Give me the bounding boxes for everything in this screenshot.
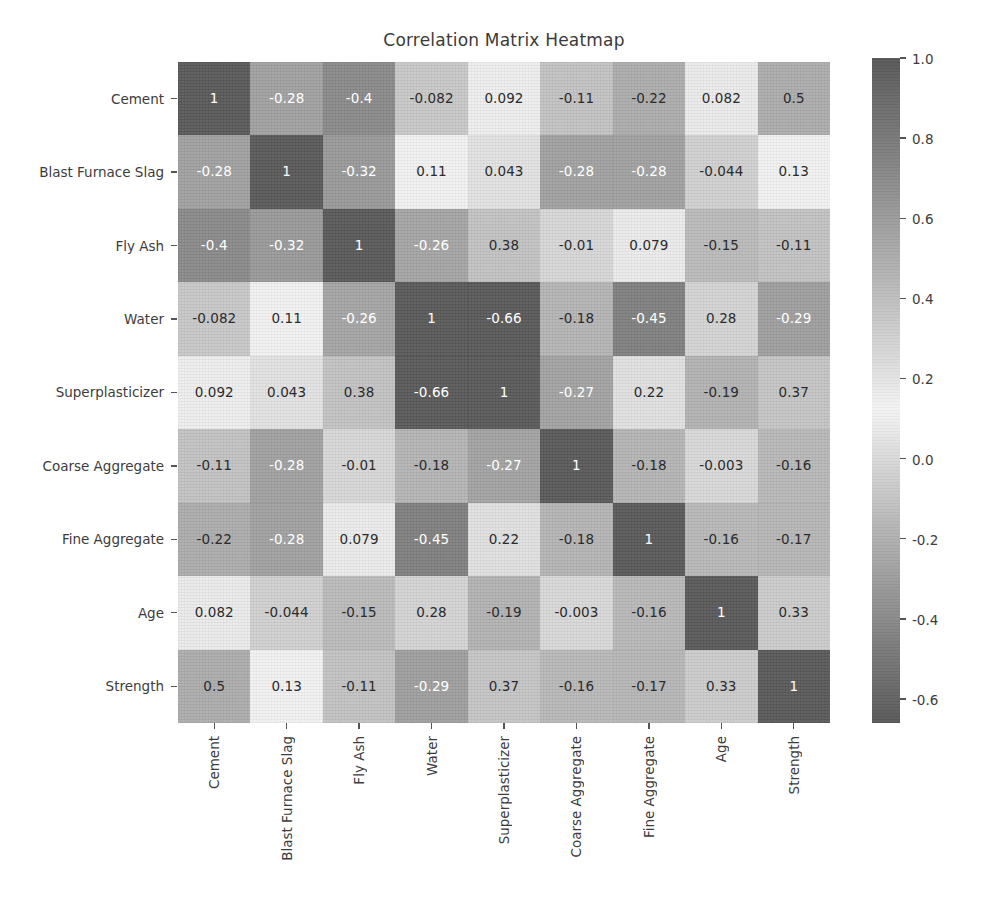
- x-axis-tick-label: Cement: [206, 736, 222, 789]
- heatmap-cell: -0.45: [613, 282, 685, 355]
- heatmap-cell: -0.11: [540, 62, 612, 135]
- colorbar-tickmark: [900, 378, 906, 379]
- x-axis-tick: Age: [685, 723, 757, 908]
- y-axis-tick: Fine Aggregate: [0, 503, 178, 576]
- colorbar-tickmark: [900, 298, 906, 299]
- heatmap-cell-value: -0.17: [631, 680, 666, 694]
- heatmap-cell-value: -0.28: [269, 459, 304, 473]
- heatmap-cell: -0.044: [250, 576, 322, 649]
- heatmap-cell-value: 0.22: [489, 533, 519, 547]
- heatmap-cell-value: 0.37: [779, 386, 809, 400]
- heatmap-cell: -0.22: [178, 503, 250, 576]
- heatmap-cell: 1: [395, 282, 467, 355]
- heatmap-cell: 1: [613, 503, 685, 576]
- x-axis-tick: Water: [395, 723, 467, 908]
- heatmap-cell: 0.5: [758, 62, 830, 135]
- heatmap-cell-value: 0.37: [489, 680, 519, 694]
- heatmap-cell: -0.16: [685, 503, 757, 576]
- colorbar-tick-label: -0.2: [912, 531, 938, 547]
- colorbar-tickmark: [900, 57, 906, 58]
- heatmap-cell-value: -0.082: [192, 312, 236, 326]
- heatmap-cell-value: -0.16: [776, 459, 811, 473]
- colorbar-tick-label: 0.4: [912, 291, 933, 307]
- heatmap-cell-value: -0.32: [341, 165, 376, 179]
- heatmap-cell: -0.003: [685, 429, 757, 502]
- y-axis-tick-label: Fly Ash: [115, 238, 171, 254]
- heatmap-cell: -0.01: [540, 209, 612, 282]
- x-axis-tick-label: Fine Aggregate: [641, 736, 657, 838]
- heatmap-cell: -0.17: [758, 503, 830, 576]
- heatmap-cell-value: 0.13: [779, 165, 809, 179]
- x-axis-tick: Blast Furnace Slag: [250, 723, 322, 908]
- heatmap-cell-value: -0.15: [704, 239, 739, 253]
- x-axis-tick-label: Coarse Aggregate: [568, 736, 584, 858]
- colorbar-tick-label: 1.0: [912, 51, 933, 67]
- heatmap-cell-value: -0.28: [631, 165, 666, 179]
- heatmap-cell: 0.22: [468, 503, 540, 576]
- heatmap-cell-value: -0.27: [486, 459, 521, 473]
- y-axis-tick: Strength: [0, 650, 178, 723]
- heatmap-cell-value: 0.082: [702, 92, 741, 106]
- heatmap-cell: -0.19: [468, 576, 540, 649]
- heatmap-cell: -0.16: [758, 429, 830, 502]
- heatmap-cell: 1: [685, 576, 757, 649]
- heatmap-cell-value: -0.4: [346, 92, 373, 106]
- y-axis-tick-label: Superplasticizer: [56, 384, 171, 400]
- heatmap-cell-value: 0.11: [416, 165, 446, 179]
- correlation-heatmap-figure: Correlation Matrix Heatmap CementBlast F…: [0, 0, 985, 908]
- heatmap-cell: 0.28: [685, 282, 757, 355]
- heatmap-cell-value: 0.11: [271, 312, 301, 326]
- heatmap-cell: 0.082: [685, 62, 757, 135]
- heatmap-cell-value: -0.044: [265, 606, 309, 620]
- heatmap-cell: 0.079: [613, 209, 685, 282]
- heatmap-cell: 0.37: [468, 650, 540, 723]
- heatmap-cell: -0.082: [395, 62, 467, 135]
- heatmap-cell: -0.66: [468, 282, 540, 355]
- heatmap-cell: 1: [758, 650, 830, 723]
- heatmap-cell-value: -0.15: [341, 606, 376, 620]
- heatmap-cell-value: -0.18: [559, 533, 594, 547]
- colorbar-tick-label: 0.6: [912, 211, 933, 227]
- heatmap-cell: -0.29: [395, 650, 467, 723]
- colorbar-tick-label: -0.6: [912, 691, 938, 707]
- heatmap-cell-value: -0.28: [269, 92, 304, 106]
- heatmap-cell: -0.27: [468, 429, 540, 502]
- heatmap-cell: 0.13: [758, 135, 830, 208]
- heatmap-cell-value: 0.079: [340, 533, 379, 547]
- y-axis-tickmark: [171, 612, 177, 613]
- colorbar-tick-label: 0.0: [912, 451, 933, 467]
- heatmap-cell: -0.28: [250, 429, 322, 502]
- heatmap-cell-value: -0.11: [559, 92, 594, 106]
- heatmap-cell: -0.22: [613, 62, 685, 135]
- heatmap-cell: 1: [540, 429, 612, 502]
- heatmap-cell: -0.18: [540, 503, 612, 576]
- heatmap-cell-value: 0.5: [203, 680, 225, 694]
- heatmap-cell: -0.17: [613, 650, 685, 723]
- heatmap-cell: -0.26: [323, 282, 395, 355]
- heatmap-cell-value: -0.22: [631, 92, 666, 106]
- heatmap-cell-value: 0.082: [195, 606, 234, 620]
- colorbar-tickmark: [900, 458, 906, 459]
- colorbar-tickmark: [900, 137, 906, 138]
- heatmap-cell-value: 1: [282, 165, 291, 179]
- x-axis: CementBlast Furnace SlagFly AshWaterSupe…: [178, 723, 830, 908]
- heatmap-cell-value: 0.38: [489, 239, 519, 253]
- y-axis-tick: Blast Furnace Slag: [0, 135, 178, 208]
- heatmap-cell-value: -0.01: [559, 239, 594, 253]
- heatmap-cell-value: -0.18: [414, 459, 449, 473]
- heatmap-cell-value: -0.45: [631, 312, 666, 326]
- colorbar-tickmark: [900, 218, 906, 219]
- heatmap-cell: 0.11: [250, 282, 322, 355]
- y-axis-tickmark: [171, 392, 177, 393]
- x-axis-tickmark: [431, 723, 432, 729]
- heatmap-cell-value: -0.11: [776, 239, 811, 253]
- y-axis-tickmark: [171, 98, 177, 99]
- heatmap-cell: -0.29: [758, 282, 830, 355]
- colorbar-tick-label: 0.8: [912, 131, 933, 147]
- y-axis-tick-label: Fine Aggregate: [62, 531, 171, 547]
- heatmap-cell: 0.092: [178, 356, 250, 429]
- x-axis-tick: Fine Aggregate: [613, 723, 685, 908]
- heatmap-cell-value: -0.66: [414, 386, 449, 400]
- heatmap-cell: -0.16: [540, 650, 612, 723]
- heatmap-cell-value: -0.003: [699, 459, 743, 473]
